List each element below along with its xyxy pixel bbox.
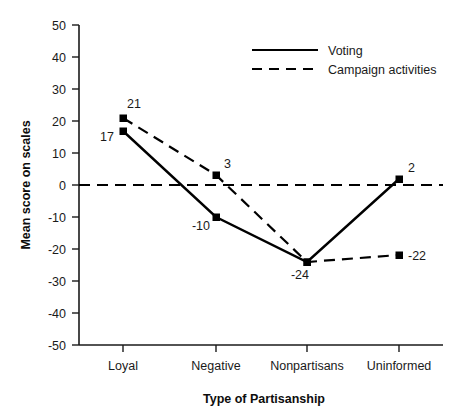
- y-tick-label: -20: [48, 243, 66, 257]
- data-label: 21: [127, 97, 141, 111]
- data-label: -22: [408, 249, 426, 263]
- y-tick-label: -40: [48, 307, 66, 321]
- y-tick-label: 0: [59, 179, 66, 193]
- line-chart: 50 40 30 20 10 0 -10 -20 -30 -40 -50 Loy…: [0, 0, 472, 418]
- x-tick-label-loyal: Loyal: [108, 359, 138, 373]
- y-tick-label: -10: [48, 211, 66, 225]
- y-tick-label: 10: [52, 147, 66, 161]
- y-tick-label: 30: [52, 83, 66, 97]
- x-axis-ticks: [123, 345, 399, 352]
- data-point-marker: [304, 259, 312, 267]
- y-axis-tick-labels: 50 40 30 20 10 0 -10 -20 -30 -40 -50: [48, 19, 66, 353]
- x-axis-tick-labels: Loyal Negative Nonpartisans Uninformed: [108, 359, 431, 373]
- x-axis-title: Type of Partisanship: [203, 392, 325, 406]
- legend-label-campaign-activities: Campaign activities: [328, 63, 436, 77]
- data-point-marker: [396, 252, 404, 260]
- data-point-marker: [396, 176, 404, 184]
- legend-label-voting: Voting: [328, 44, 363, 58]
- series-line-voting: [123, 131, 399, 262]
- chart-legend: Voting Campaign activities: [252, 44, 436, 77]
- data-label: -24: [291, 268, 309, 282]
- series-markers-voting: [120, 128, 404, 267]
- y-tick-label: 50: [52, 19, 66, 33]
- data-label: 17: [100, 130, 114, 144]
- y-tick-label: -50: [48, 339, 66, 353]
- series-markers-campaign-activities: [120, 115, 404, 267]
- data-label: -10: [192, 219, 210, 233]
- x-tick-label-nonpartisans: Nonpartisans: [270, 359, 344, 373]
- data-point-marker: [213, 172, 221, 180]
- data-label: 2: [408, 161, 415, 175]
- data-point-marker: [120, 115, 128, 123]
- chart-container: 50 40 30 20 10 0 -10 -20 -30 -40 -50 Loy…: [0, 0, 472, 418]
- data-point-marker: [213, 214, 221, 222]
- data-label: 3: [224, 157, 231, 171]
- y-tick-label: 40: [52, 51, 66, 65]
- y-tick-label: 20: [52, 115, 66, 129]
- x-tick-label-negative: Negative: [191, 359, 240, 373]
- y-tick-label: -30: [48, 275, 66, 289]
- y-axis-title: Mean score on scales: [19, 120, 33, 249]
- data-labels-voting: 17 -10 2: [100, 130, 415, 233]
- data-point-marker: [120, 128, 128, 136]
- data-labels-campaign-activities: 21 3 -24 -22: [127, 97, 426, 282]
- x-tick-label-uninformed: Uninformed: [367, 359, 432, 373]
- y-axis-ticks: [72, 25, 79, 345]
